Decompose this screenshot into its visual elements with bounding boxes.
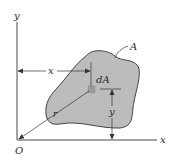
area-element-da	[88, 86, 95, 93]
label-a-leader	[115, 46, 128, 58]
element-label-da: dA	[96, 74, 110, 85]
region-label-a: A	[129, 41, 137, 52]
y-axis-label: y	[13, 10, 20, 21]
area-diagram: y x O A dA x y r	[0, 0, 192, 163]
x-dimension-label: x	[48, 65, 54, 76]
x-axis-label: x	[160, 134, 166, 145]
radius-label-r: r	[53, 109, 58, 119]
y-dimension-label: y	[108, 106, 115, 117]
origin-label: O	[15, 145, 23, 156]
